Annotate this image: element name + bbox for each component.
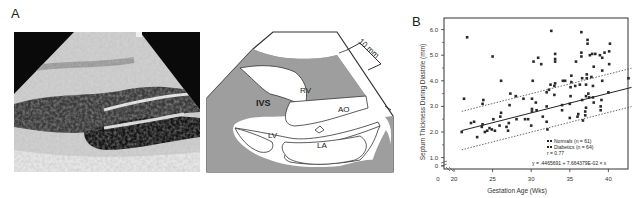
data-point <box>581 99 584 102</box>
data-point <box>564 80 567 83</box>
data-point <box>580 55 583 58</box>
data-point <box>627 77 630 80</box>
data-point <box>569 117 572 120</box>
label-scale-10mm: 10 mm <box>357 37 381 60</box>
data-point <box>608 63 611 66</box>
data-point <box>554 53 557 56</box>
echocardiogram-image <box>14 32 200 172</box>
data-point <box>584 114 587 117</box>
x-tick-label: 25 <box>489 176 496 182</box>
data-point <box>550 30 553 33</box>
data-point <box>608 50 611 53</box>
data-point <box>579 83 582 86</box>
data-point <box>569 86 572 89</box>
septum-thickness-scatter-chart: 01.02.03.04.05.06.002025303540 Normals (… <box>410 10 638 198</box>
data-point <box>553 85 556 88</box>
data-point <box>570 74 573 77</box>
data-point <box>473 120 476 123</box>
data-point <box>508 122 511 125</box>
legend-marker <box>550 146 552 148</box>
data-point <box>599 109 602 112</box>
y-tick-label: 2.0 <box>430 129 439 135</box>
confidence-band-line <box>462 68 632 111</box>
data-point <box>554 58 557 61</box>
data-point <box>561 109 564 112</box>
data-point <box>466 36 469 39</box>
data-point <box>585 106 588 109</box>
data-point <box>463 97 466 100</box>
data-point <box>553 94 556 97</box>
data-point <box>535 101 538 104</box>
data-point <box>580 31 583 34</box>
legend-marker <box>550 140 552 142</box>
legend-marker <box>547 140 549 142</box>
x-tick-label: 35 <box>566 176 573 182</box>
data-point <box>586 42 589 45</box>
regression-line <box>462 87 632 130</box>
data-point <box>592 96 595 99</box>
data-points <box>460 30 629 139</box>
data-point <box>507 129 510 132</box>
data-point <box>607 91 610 94</box>
y-tick-label: 0 <box>435 163 439 169</box>
data-point <box>545 105 548 108</box>
data-point <box>545 91 548 94</box>
data-point <box>480 126 483 129</box>
data-point <box>499 115 502 118</box>
data-point <box>592 85 595 88</box>
data-point <box>460 131 463 134</box>
data-point <box>546 128 549 131</box>
data-point <box>592 101 595 104</box>
data-point <box>531 110 534 113</box>
data-point <box>562 80 565 83</box>
data-point <box>554 60 557 63</box>
chart-legend: Normals (n = 61)Diabetics (n = 64)r = 0.… <box>532 138 607 166</box>
data-point <box>508 104 511 107</box>
y-axis-label: Septum Thickness During Diastole (mm) <box>419 44 427 161</box>
data-point <box>524 118 527 121</box>
data-point <box>599 105 602 108</box>
data-point <box>589 54 592 57</box>
data-point <box>601 56 604 59</box>
data-point <box>584 110 587 113</box>
data-point <box>548 88 551 91</box>
label-la: LA <box>317 141 327 150</box>
data-point <box>561 104 564 107</box>
x-tick-label: 20 <box>451 176 458 182</box>
data-point <box>531 97 534 100</box>
data-point <box>482 99 485 102</box>
data-point <box>491 128 494 131</box>
data-point <box>587 92 590 95</box>
data-point <box>498 124 501 127</box>
x-axis-label: Gestation Age (Wks) <box>487 187 547 195</box>
label-ao: AO <box>338 105 350 114</box>
data-point <box>549 83 552 86</box>
data-point <box>577 113 580 116</box>
data-point <box>530 124 533 127</box>
data-point <box>585 95 588 98</box>
data-point <box>515 118 518 121</box>
data-point <box>522 97 525 100</box>
data-point <box>581 77 584 80</box>
y-tick-label: 3.0 <box>430 103 439 109</box>
regression-lines <box>462 68 632 150</box>
data-point <box>514 95 517 98</box>
data-point <box>588 96 591 99</box>
data-point <box>494 129 497 132</box>
data-point <box>601 80 604 83</box>
y-tick-label: 6.0 <box>430 27 439 33</box>
data-point <box>569 95 572 98</box>
y-tick-label: 4.0 <box>430 78 439 84</box>
data-point <box>591 53 594 56</box>
data-point <box>531 108 534 111</box>
data-point <box>532 60 535 63</box>
data-point <box>590 76 593 79</box>
data-point <box>509 92 512 95</box>
y-tick-label: 5.0 <box>430 52 439 58</box>
data-point <box>545 120 548 123</box>
legend-r-value: r = 0.77 <box>547 150 564 156</box>
data-point <box>576 115 579 118</box>
data-point <box>582 119 585 122</box>
label-rv: RV <box>300 86 312 95</box>
data-point <box>540 63 543 66</box>
